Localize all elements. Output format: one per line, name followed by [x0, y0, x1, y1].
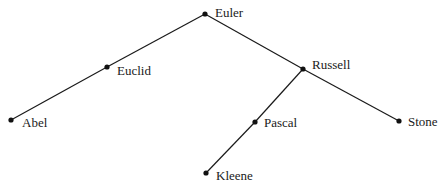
label-abel: Abel	[22, 116, 47, 129]
node-russell	[300, 66, 305, 71]
edge-euclid-abel	[11, 67, 107, 120]
label-stone: Stone	[408, 115, 438, 128]
label-russell: Russell	[312, 58, 350, 71]
edge-euler-euclid	[107, 14, 205, 67]
tree-diagram	[0, 0, 443, 187]
label-kleene: Kleene	[216, 169, 253, 182]
node-abel	[8, 117, 13, 122]
label-pascal: Pascal	[264, 116, 297, 129]
label-euler: Euler	[215, 6, 243, 19]
node-pascal	[252, 119, 257, 124]
edge-euler-russell	[205, 14, 303, 69]
node-stone	[396, 118, 401, 123]
node-euler	[202, 11, 207, 16]
node-euclid	[104, 64, 109, 69]
label-euclid: Euclid	[117, 64, 151, 77]
node-kleene	[203, 170, 208, 175]
edge-pascal-kleene	[206, 122, 255, 173]
edge-russell-stone	[303, 69, 399, 121]
